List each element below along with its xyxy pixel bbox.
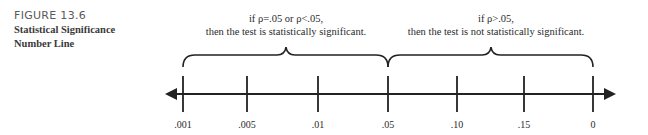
tick-label: .005 (238, 119, 256, 130)
tick-label: .05 (382, 119, 395, 130)
right-arrow-icon (604, 88, 616, 100)
left-arrow-icon (165, 88, 177, 100)
not-significant-brace (388, 47, 593, 67)
tick-label: .01 (312, 119, 325, 130)
tick-label: 0 (591, 119, 596, 130)
number-line-diagram: .001 .005 .01 .05 .10 .15 0 (0, 0, 648, 135)
tick-label: .10 (451, 119, 464, 130)
tick-label: .001 (174, 119, 192, 130)
significant-brace (183, 47, 388, 67)
tick-label: .15 (518, 119, 531, 130)
